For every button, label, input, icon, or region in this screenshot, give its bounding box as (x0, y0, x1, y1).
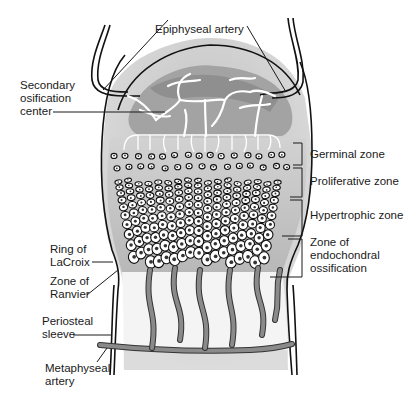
growth-plate-diagram: Epiphyseal artery Secondary osification … (0, 0, 412, 398)
label-ring-of-lacroix: Ring of LaCroix (50, 243, 90, 268)
svg-text:Zone of: Zone of (310, 236, 350, 248)
svg-text:Zone of: Zone of (50, 275, 90, 287)
svg-text:Metaphyseal: Metaphyseal (45, 362, 110, 374)
label-epiphyseal-artery: Epiphyseal artery (155, 23, 244, 35)
label-proliferative-zone: Proliferative zone (310, 175, 399, 187)
svg-text:sleeve: sleeve (42, 328, 75, 340)
label-secondary-ossification-center: Secondary osification center (20, 79, 75, 117)
label-germinal-zone: Germinal zone (310, 148, 385, 160)
svg-text:Ring of: Ring of (50, 243, 87, 255)
svg-text:artery: artery (45, 375, 75, 387)
svg-text:Ranvier: Ranvier (50, 288, 90, 300)
label-endochondral-zone: Zone of endochondral ossification (310, 236, 380, 274)
svg-text:LaCroix: LaCroix (50, 256, 90, 268)
svg-text:ossification: ossification (310, 262, 367, 274)
label-periosteal-sleeve: Periosteal sleeve (42, 315, 93, 340)
svg-text:center: center (20, 105, 52, 117)
svg-text:osification: osification (20, 92, 71, 104)
label-metaphyseal-artery: Metaphyseal artery (45, 362, 110, 387)
label-hypertrophic-zone: Hypertrophic zone (310, 209, 403, 221)
label-zone-of-ranvier: Zone of Ranvier (50, 275, 90, 300)
svg-text:Secondary: Secondary (20, 79, 75, 91)
svg-text:Periosteal: Periosteal (42, 315, 93, 327)
svg-text:endochondral: endochondral (310, 249, 380, 261)
